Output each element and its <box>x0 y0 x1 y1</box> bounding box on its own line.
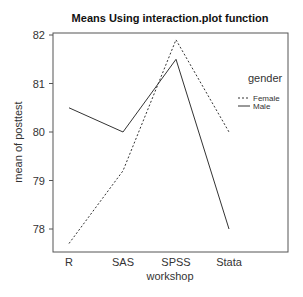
legend: gender Female Male <box>238 72 283 111</box>
plot-area-frame <box>53 33 288 252</box>
x-tick-label: SPSS <box>161 256 190 268</box>
series-line-female <box>69 40 229 244</box>
x-tick-label: R <box>65 256 73 268</box>
x-tick-label: Stata <box>216 256 243 268</box>
legend-male-label: Male <box>253 102 271 111</box>
y-tick-label: 79 <box>33 175 45 187</box>
series-line-male <box>69 59 229 229</box>
series-lines <box>69 40 229 244</box>
y-axis: 7879808182 <box>33 29 53 235</box>
y-tick-label: 80 <box>33 126 45 138</box>
y-tick-label: 82 <box>33 29 45 41</box>
y-tick-label: 81 <box>33 78 45 90</box>
interaction-plot: Means Using interaction.plot function 78… <box>0 0 303 297</box>
y-axis-label: mean of posttest <box>12 101 24 182</box>
x-axis: RSASSPSSStata <box>65 256 243 268</box>
x-axis-label: workshop <box>145 270 193 282</box>
chart-title: Means Using interaction.plot function <box>72 12 269 24</box>
y-tick-label: 78 <box>33 223 45 235</box>
x-tick-label: SAS <box>112 256 134 268</box>
legend-title: gender <box>248 72 283 84</box>
